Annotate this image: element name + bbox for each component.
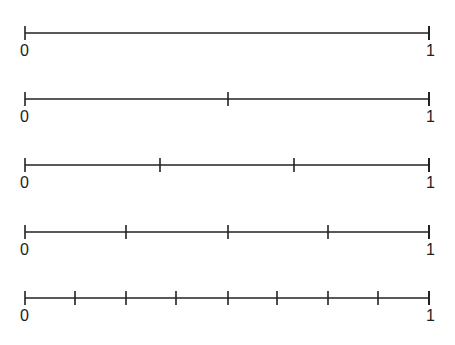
start-label: 0 <box>20 109 29 125</box>
number-line-3 <box>25 158 429 172</box>
start-label: 0 <box>20 175 29 191</box>
number-line-5 <box>25 291 429 305</box>
end-label: 1 <box>426 43 435 59</box>
start-label: 0 <box>20 43 29 59</box>
start-label: 0 <box>20 308 29 324</box>
end-label: 1 <box>426 308 435 324</box>
number-line-2 <box>25 92 429 106</box>
end-label: 1 <box>426 175 435 191</box>
number-lines-canvas <box>0 0 455 345</box>
number-line-1 <box>25 26 429 40</box>
number-line-4 <box>25 225 429 239</box>
start-label: 0 <box>20 242 29 258</box>
end-label: 1 <box>426 242 435 258</box>
end-label: 1 <box>426 109 435 125</box>
